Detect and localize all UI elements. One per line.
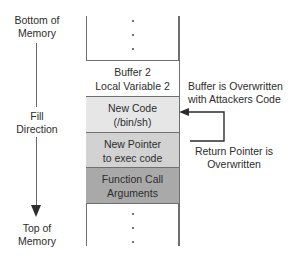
ellipsis-dot [132, 227, 134, 229]
ellipsis-dot [132, 20, 134, 22]
fill-direction-line-upper [36, 43, 38, 107]
stack-box-new-code: New Code (/bin/sh) [86, 96, 179, 133]
return-pointer-connector [178, 106, 228, 146]
stack-box-buffer: Buffer 2 Local Variable 2 [86, 60, 179, 97]
stack-box-function-args: Function Call Arguments [86, 167, 179, 204]
stack-box-text: New Pointer [104, 137, 161, 151]
annotation-line: Buffer is Overwritten [188, 80, 292, 93]
stack-box-text: to exec code [103, 151, 163, 165]
bottom-of-memory-line2: Memory [6, 27, 68, 40]
stack-box-text: (/bin/sh) [114, 115, 152, 129]
stack-box-text: Arguments [107, 186, 158, 200]
buffer-overwritten-annotation: Buffer is Overwritten with Attackers Cod… [186, 80, 292, 106]
annotation-line: Return Pointer is [184, 145, 284, 158]
top-of-memory-label: Top of Memory [6, 222, 68, 248]
bottom-of-memory-line1: Bottom of [6, 14, 68, 27]
left-arrow-icon [179, 108, 189, 116]
fill-direction-line2: Direction [6, 123, 68, 136]
fill-direction-line1: Fill [6, 110, 68, 123]
ellipsis-dot [132, 48, 134, 50]
stack-box-text: New Code [108, 101, 157, 115]
ellipsis-dot [132, 213, 134, 215]
stack-box-text: Local Variable 2 [95, 79, 170, 93]
fill-direction-label: Fill Direction [6, 110, 68, 136]
top-of-memory-line1: Top of [6, 222, 68, 235]
ellipsis-dot [132, 241, 134, 243]
stack-box-new-pointer: New Pointer to exec code [86, 132, 179, 168]
stack-box-text: Function Call [102, 172, 163, 186]
ellipsis-dot [132, 34, 134, 36]
fill-direction-line-lower [36, 137, 38, 209]
bottom-of-memory-label: Bottom of Memory [6, 14, 68, 40]
top-of-memory-line2: Memory [6, 235, 68, 248]
down-arrow-icon [29, 204, 43, 218]
annotation-line: with Attackers Code [188, 93, 292, 106]
return-pointer-annotation: Return Pointer is Overwritten [184, 145, 284, 171]
stack-box-text: Buffer 2 [114, 65, 151, 79]
annotation-line: Overwritten [184, 158, 284, 171]
